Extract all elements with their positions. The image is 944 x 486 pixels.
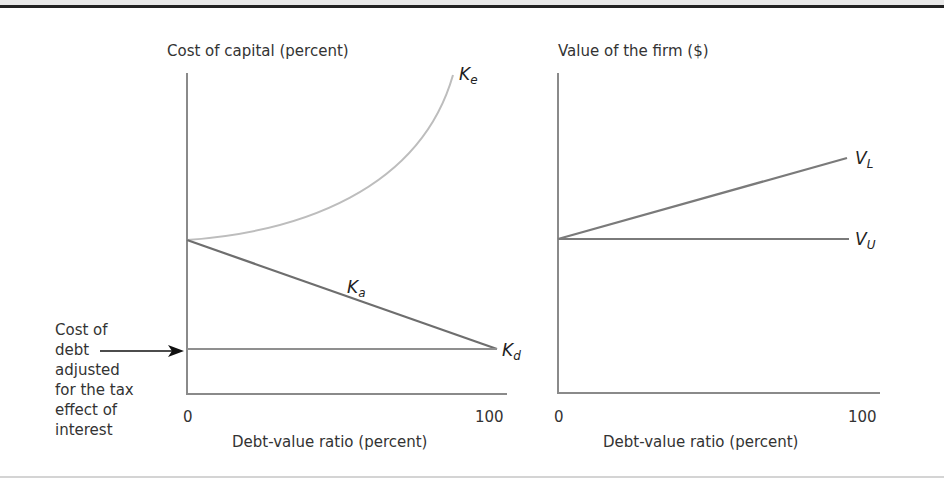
vl-label: VL xyxy=(855,148,873,171)
cost-of-debt-annotation: Cost of debt adjusted for the tax effect… xyxy=(55,320,134,440)
left-x-tick-100: 100 xyxy=(475,410,504,425)
left-x-axis-title: Debt-value ratio (percent) xyxy=(232,435,427,450)
vu-subscript: U xyxy=(867,238,876,252)
bottom-rule xyxy=(0,476,944,478)
ka-line xyxy=(187,240,497,349)
kd-label: Kd xyxy=(502,340,521,363)
annotation-line-4: for the tax xyxy=(55,380,134,400)
ka-symbol: K xyxy=(347,277,358,297)
annotation-line-5: effect of xyxy=(55,400,134,420)
annotation-line-3: adjusted xyxy=(55,360,134,380)
ke-label: Ke xyxy=(459,64,478,87)
kd-subscript: d xyxy=(513,349,521,363)
right-x-tick-0: 0 xyxy=(554,410,564,425)
ke-curve xyxy=(187,75,453,240)
vl-subscript: L xyxy=(867,157,874,171)
left-x-tick-0: 0 xyxy=(183,410,193,425)
vl-line xyxy=(558,158,847,239)
ka-subscript: a xyxy=(358,286,365,300)
ka-label: Ka xyxy=(347,277,366,300)
right-x-axis-title: Debt-value ratio (percent) xyxy=(603,435,798,450)
annotation-line-2: debt xyxy=(55,340,134,360)
right-y-axis-title: Value of the firm ($) xyxy=(558,44,709,59)
right-x-tick-100: 100 xyxy=(848,410,877,425)
vl-symbol: V xyxy=(855,148,867,168)
vu-label: VU xyxy=(855,229,875,252)
annotation-line-6: interest xyxy=(55,420,134,440)
annotation-line-1: Cost of xyxy=(55,320,134,340)
kd-symbol: K xyxy=(502,340,513,360)
vu-symbol: V xyxy=(855,229,867,249)
ke-subscript: e xyxy=(470,73,477,87)
ke-symbol: K xyxy=(459,64,470,84)
left-y-axis-title: Cost of capital (percent) xyxy=(167,44,349,59)
